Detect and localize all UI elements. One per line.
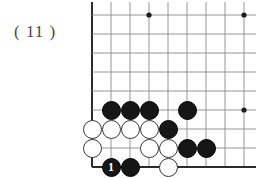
stone-black-numbered[interactable]: 1 <box>102 158 121 177</box>
stone-black[interactable] <box>178 101 197 120</box>
stone-white[interactable] <box>83 139 102 158</box>
stone-black[interactable] <box>197 139 216 158</box>
go-board[interactable]: 1 <box>0 0 257 178</box>
star-point <box>241 107 246 112</box>
stone-black[interactable] <box>121 158 140 177</box>
stone-black[interactable] <box>178 139 197 158</box>
stone-black[interactable] <box>102 101 121 120</box>
board-grid <box>0 0 257 178</box>
stone-white[interactable] <box>121 120 140 139</box>
stone-white[interactable] <box>102 120 121 139</box>
stone-black[interactable] <box>121 101 140 120</box>
star-point <box>241 12 246 17</box>
stone-white[interactable] <box>159 158 178 177</box>
stone-white[interactable] <box>140 139 159 158</box>
stone-white[interactable] <box>140 120 159 139</box>
stone-white[interactable] <box>159 139 178 158</box>
star-point <box>146 12 151 17</box>
stone-move-number: 1 <box>103 159 120 176</box>
go-problem-figure: ( 11 ) 1 <box>0 0 257 178</box>
stone-white[interactable] <box>83 120 102 139</box>
stone-black[interactable] <box>159 120 178 139</box>
stone-black[interactable] <box>140 101 159 120</box>
